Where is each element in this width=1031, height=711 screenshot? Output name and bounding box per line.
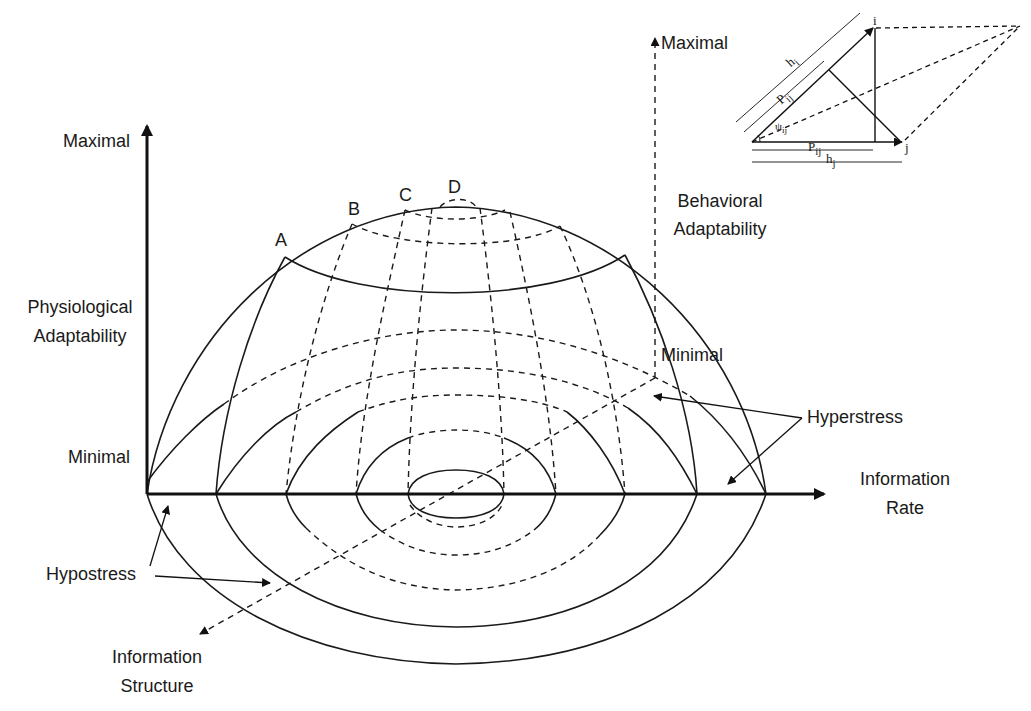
ellipse-2-upper-back bbox=[296, 368, 628, 412]
behavioral-max-label: Maximal bbox=[661, 32, 728, 54]
ellipse-3-lower-back bbox=[306, 528, 600, 590]
inset-angle-label: ψij bbox=[775, 115, 787, 141]
physiological-axis-label-line1: Physiological bbox=[0, 296, 160, 318]
information-rate-label-line2: Rate bbox=[845, 497, 965, 519]
ellipse-2-upper-left bbox=[216, 412, 296, 494]
ellipse-3-upper-back bbox=[358, 395, 567, 412]
meridian-right-outer bbox=[625, 255, 697, 494]
point-label-b: B bbox=[348, 198, 360, 220]
physiological-axis-label-line2: Adaptability bbox=[0, 325, 160, 347]
ellipse-3-upper-right bbox=[567, 412, 625, 494]
ellipse-2-lower bbox=[216, 494, 697, 627]
ellipse-outer-upper-back bbox=[224, 330, 690, 404]
inset-h-j-label: hj bbox=[826, 148, 836, 174]
meridian-b-left bbox=[286, 224, 352, 494]
behavioral-axis-label-line1: Behavioral bbox=[660, 190, 780, 212]
ellipse-outer-lower bbox=[147, 494, 766, 664]
ellipse-4-upper-left bbox=[356, 438, 408, 494]
physiological-max-label: Maximal bbox=[30, 130, 130, 152]
information-structure-label-line1: Information bbox=[97, 646, 217, 668]
hypostress-leader-1 bbox=[150, 506, 168, 566]
ellipse-3-lower-right bbox=[600, 494, 625, 535]
ellipse-4-lower-left bbox=[356, 494, 380, 530]
dome-diagram bbox=[0, 0, 1031, 711]
hyperstress-leader-1 bbox=[654, 396, 802, 418]
hypostress-leader-2 bbox=[155, 576, 270, 583]
inset-p-ij-base-label: Pij bbox=[808, 136, 821, 162]
meridian-d-left bbox=[408, 208, 432, 494]
ring-d bbox=[440, 200, 476, 208]
ellipse-4-upper-back bbox=[408, 430, 504, 438]
ellipse-3-lower-left bbox=[286, 494, 306, 528]
ring-b bbox=[352, 224, 560, 244]
information-rate-label-line1: Information bbox=[845, 468, 965, 490]
ring-c bbox=[405, 210, 505, 219]
meridian-c-right bbox=[510, 212, 556, 494]
point-label-c: C bbox=[399, 184, 412, 206]
behavioral-axis-label-line2: Adaptability bbox=[660, 218, 780, 240]
structure-axis bbox=[200, 378, 655, 634]
hyperstress-leader-2 bbox=[728, 418, 802, 484]
inset-vertex-j: j bbox=[905, 137, 909, 159]
ring-a bbox=[285, 255, 625, 293]
behavioral-min-label: Minimal bbox=[661, 344, 723, 366]
meridian-d-right bbox=[480, 208, 504, 494]
point-label-a: A bbox=[275, 229, 287, 251]
ellipse-3-upper-left bbox=[286, 412, 358, 494]
physiological-min-label: Minimal bbox=[30, 446, 130, 468]
meridian-left-outer bbox=[216, 257, 285, 494]
ellipse-4-upper-right bbox=[504, 438, 556, 494]
inset-vertex-i: i bbox=[873, 10, 877, 32]
ellipse-4-lower-right bbox=[534, 494, 556, 530]
information-structure-label-line2: Structure bbox=[97, 675, 217, 697]
ellipse-4-lower-back bbox=[380, 530, 534, 555]
hypostress-label: Hypostress bbox=[46, 563, 136, 585]
point-label-d: D bbox=[448, 176, 461, 198]
meridian-c-left bbox=[356, 210, 405, 494]
hyperstress-label: Hyperstress bbox=[807, 406, 903, 428]
